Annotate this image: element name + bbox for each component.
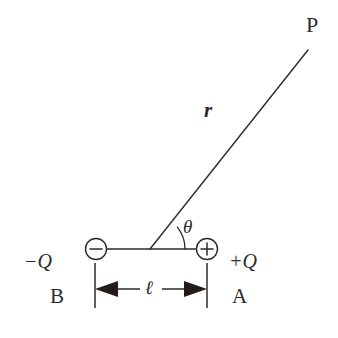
dimension-arrowhead-right [184,281,207,297]
point-label-a: A [232,286,247,307]
point-label-b: B [50,286,64,307]
distance-label-r: r [204,100,212,121]
negative-charge-label: −Q [24,251,52,271]
separation-label-ell: ℓ [145,278,153,297]
radius-ray-line [150,50,308,249]
positive-charge-symbol [197,239,218,260]
field-point-label-p: P [306,14,318,36]
angle-label-theta: θ [183,217,192,236]
dimension-arrowhead-left [95,281,118,297]
positive-charge-label: +Q [229,251,257,271]
dipole-figure: P r θ −Q +Q B A ℓ [0,0,338,338]
negative-charge-symbol [86,239,107,260]
